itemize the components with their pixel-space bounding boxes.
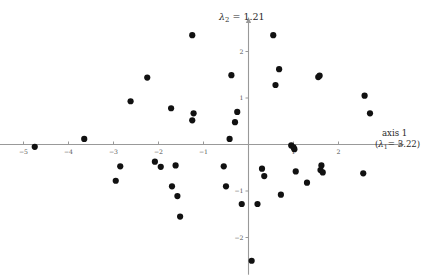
data-point [177,213,183,219]
data-point [278,192,284,198]
data-point [362,93,368,99]
y-tick-label: −2 [234,234,243,241]
data-point [174,193,180,199]
y-axis-title: λ2 = 1.21 [219,12,265,25]
data-point [117,163,123,169]
x-tick-label: −3 [109,148,118,155]
data-point [158,164,164,170]
data-point [261,173,267,179]
data-point [223,183,229,189]
data-point [152,159,158,165]
data-point [168,105,174,111]
data-point [144,74,150,80]
x-tick-label: −5 [19,148,28,155]
y-tick-label: 2 [240,48,244,55]
data-point [272,82,278,88]
data-point [113,178,119,184]
x-axis-title: axis 1 [382,129,407,139]
data-point [254,201,260,207]
data-point [293,168,299,174]
x-tick-label: −2 [154,148,163,155]
data-point [227,136,233,142]
data-point [228,72,234,78]
data-point [259,166,265,172]
y-tick-label: 1 [240,94,244,101]
data-point [81,136,87,142]
data-point [128,98,134,104]
data-point [189,117,195,123]
data-point [232,119,238,125]
data-point [221,163,227,169]
y-axis-lambda-subscript: 2 [225,16,229,24]
data-point [191,110,197,116]
y-axis-eigenvalue: = 1.21 [232,11,264,22]
data-point [169,183,175,189]
data-point [234,109,240,115]
data-point [173,162,179,168]
scatter-plot-figure: −5−4−3−2−11221−1−2 λ2 = 1.21 axis 1 (λ1=… [0,0,437,280]
data-point [317,73,323,79]
data-point [360,170,366,176]
data-point [239,201,245,207]
x-tick-label: 2 [337,148,341,155]
data-point [318,162,324,168]
data-point [249,258,255,264]
plot-canvas: −5−4−3−2−11221−1−2 [0,0,437,280]
data-point [291,146,297,152]
x-tick-label: −1 [199,148,208,155]
x-axis-eigenvalue-caption: (λ1= 3.22) [375,140,420,150]
data-point [320,169,326,175]
x-axis-eigenvalue: = 3.22) [388,139,420,149]
data-point [367,110,373,116]
data-point [304,180,310,186]
x-tick-label: −4 [64,148,73,155]
data-point [32,144,38,150]
data-point [270,32,276,38]
y-tick-label: −1 [234,187,243,194]
data-point [189,32,195,38]
data-point [276,66,282,72]
